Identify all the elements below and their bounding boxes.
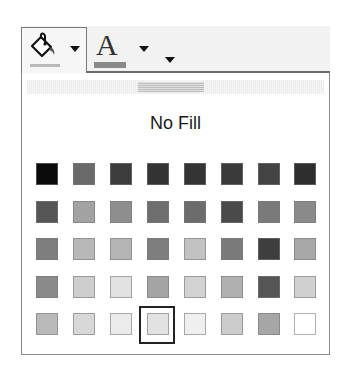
drag-handle-icon[interactable] <box>138 82 204 92</box>
font-color-icon: A <box>96 28 118 62</box>
font-color-indicator <box>94 62 126 68</box>
color-swatch[interactable] <box>73 238 95 260</box>
color-swatch[interactable] <box>147 276 169 298</box>
color-swatch[interactable] <box>147 313 169 335</box>
popup-top-border <box>86 71 330 73</box>
color-swatch[interactable] <box>221 313 243 335</box>
color-swatch[interactable] <box>221 201 243 223</box>
font-dropdown-chevron-down-icon[interactable] <box>139 46 149 52</box>
color-swatch[interactable] <box>294 201 316 223</box>
paint-bucket-icon <box>28 32 58 60</box>
color-swatch[interactable] <box>294 276 316 298</box>
overflow-chevron-down-icon[interactable] <box>165 57 175 63</box>
color-swatch[interactable] <box>73 163 95 185</box>
color-swatch[interactable] <box>73 201 95 223</box>
color-swatch[interactable] <box>258 201 280 223</box>
font-color-button[interactable]: A <box>92 30 132 70</box>
color-swatch[interactable] <box>294 163 316 185</box>
color-swatch[interactable] <box>36 238 58 260</box>
color-swatch[interactable] <box>258 313 280 335</box>
color-swatch[interactable] <box>147 238 169 260</box>
color-swatch[interactable] <box>221 276 243 298</box>
color-swatch[interactable] <box>110 313 132 335</box>
color-swatch[interactable] <box>110 163 132 185</box>
color-swatch[interactable] <box>221 238 243 260</box>
color-swatch[interactable] <box>147 201 169 223</box>
color-swatch[interactable] <box>36 201 58 223</box>
color-swatch[interactable] <box>184 201 206 223</box>
color-swatch[interactable] <box>36 163 58 185</box>
color-swatch[interactable] <box>258 238 280 260</box>
color-swatch[interactable] <box>294 238 316 260</box>
color-swatch[interactable] <box>184 276 206 298</box>
color-swatch[interactable] <box>147 163 169 185</box>
color-swatch[interactable] <box>110 238 132 260</box>
fill-color-button[interactable] <box>21 27 87 73</box>
color-swatch[interactable] <box>73 276 95 298</box>
fill-color-indicator <box>30 64 60 67</box>
color-swatch[interactable] <box>36 313 58 335</box>
color-swatch[interactable] <box>36 276 58 298</box>
color-swatch[interactable] <box>221 163 243 185</box>
color-swatch[interactable] <box>110 276 132 298</box>
color-swatch[interactable] <box>73 313 95 335</box>
color-swatch[interactable] <box>184 313 206 335</box>
color-swatch[interactable] <box>184 238 206 260</box>
color-swatch[interactable] <box>258 163 280 185</box>
no-fill-option[interactable]: No Fill <box>22 113 329 134</box>
color-swatch[interactable] <box>110 201 132 223</box>
fill-color-popup: No Fill <box>21 72 330 355</box>
color-swatch[interactable] <box>258 276 280 298</box>
color-swatch[interactable] <box>294 313 316 335</box>
fill-dropdown-chevron-down-icon[interactable] <box>70 46 80 52</box>
color-swatch[interactable] <box>184 163 206 185</box>
